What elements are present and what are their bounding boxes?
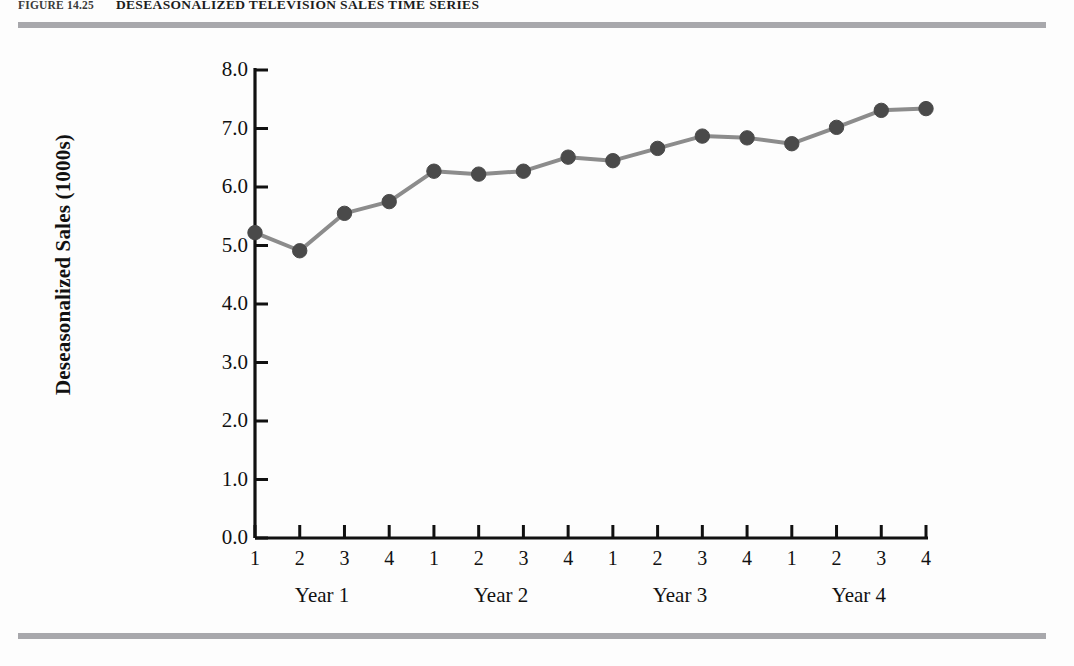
chart-series	[248, 101, 933, 258]
top-divider-rule	[18, 22, 1046, 28]
figure-title: DESEASONALIZED TELEVISION SALES TIME SER…	[116, 0, 479, 12]
figure-number: FIGURE 14.25	[18, 0, 94, 11]
line-chart-plot	[18, 30, 1046, 630]
figure-caption: FIGURE 14.25DESEASONALIZED TELEVISION SA…	[18, 0, 1048, 12]
chart-panel: Deseasonalized Sales (1000s) 0.01.02.03.…	[18, 30, 1046, 630]
bottom-divider-rule	[18, 633, 1046, 639]
chart-axes	[255, 68, 928, 538]
